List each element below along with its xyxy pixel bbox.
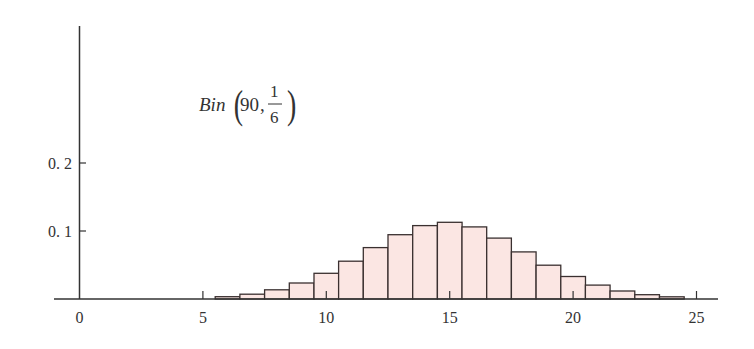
histogram-bars [215, 222, 684, 299]
bar-22 [610, 291, 635, 299]
bar-11 [339, 261, 364, 299]
x-tick-label: 25 [689, 309, 705, 326]
binomial-chart: 0510152025 0. 10. 2 Bin ( 90 , 1 6 ) [0, 0, 754, 349]
right-paren: ) [287, 82, 296, 127]
bar-9 [289, 283, 314, 299]
bar-16 [462, 227, 487, 299]
x-tick-label: 10 [318, 309, 334, 326]
y-tick-label: 0. 1 [48, 223, 72, 240]
bar-8 [265, 290, 290, 299]
bar-21 [585, 285, 610, 299]
x-tick-label: 5 [199, 309, 207, 326]
annotation-p-num: 1 [270, 82, 279, 101]
bar-12 [363, 248, 388, 299]
bar-17 [487, 238, 512, 299]
bar-14 [413, 226, 438, 299]
bar-19 [536, 265, 561, 299]
annotation-comma: , [260, 94, 265, 115]
x-tick-label: 15 [442, 309, 458, 326]
y-ticks: 0. 10. 2 [48, 155, 86, 240]
x-tick-label: 20 [565, 309, 581, 326]
annotation-n: 90 [240, 94, 259, 115]
bar-18 [511, 252, 536, 299]
bar-15 [437, 222, 462, 299]
bar-13 [388, 235, 413, 299]
distribution-annotation: Bin ( 90 , 1 6 ) [199, 82, 296, 127]
annotation-name: Bin [199, 94, 225, 115]
y-tick-label: 0. 2 [48, 155, 72, 172]
annotation-p-den: 6 [270, 108, 279, 127]
x-tick-label: 0 [76, 309, 84, 326]
